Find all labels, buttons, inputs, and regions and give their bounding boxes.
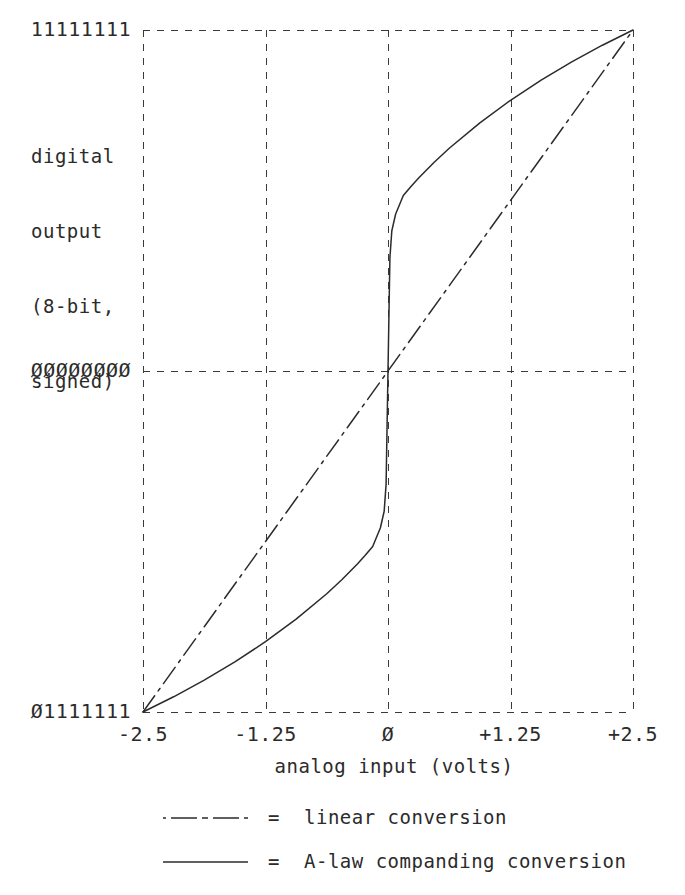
- legend-label-linear: linear conversion: [304, 806, 507, 828]
- x-axis-title: analog input (volts): [275, 755, 514, 777]
- legend-equals-2: =: [268, 850, 280, 872]
- y-tick-label-max: 11111111: [31, 17, 131, 41]
- y-tick-label-min: Ø1111111: [31, 699, 131, 723]
- x-tick-label-3: +1.25: [479, 722, 542, 746]
- legend-label-alaw: A-law companding conversion: [304, 850, 626, 872]
- alaw-companding-chart: 11111111 ØØØØØØØØ Ø1111111 digital outpu…: [0, 0, 685, 895]
- legend-equals-1: =: [268, 806, 280, 828]
- x-tick-label-4: +2.5: [608, 722, 658, 746]
- y-axis-title-line-1: digital: [31, 144, 115, 169]
- y-axis-title-line-3: (8-bit,: [31, 294, 115, 319]
- y-axis-title: digital output (8-bit, signed): [31, 94, 115, 444]
- y-axis-title-line-2: output: [31, 219, 115, 244]
- x-tick-label-2: Ø: [382, 722, 395, 746]
- x-tick-label-0: -2.5: [118, 722, 168, 746]
- legend-sample-lines: [163, 818, 248, 862]
- x-tick-label-1: -1.25: [234, 722, 297, 746]
- y-axis-title-line-4: signed): [31, 369, 115, 394]
